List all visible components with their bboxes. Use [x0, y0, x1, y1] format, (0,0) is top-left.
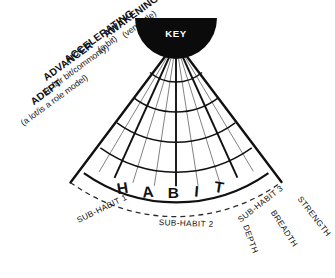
habit-fan-diagram: KEY AWAKENING (very little) ACCELERATING… — [0, 0, 335, 278]
axis-label-depth: DEPTH — [241, 224, 260, 255]
fan-chart-svg: KEY AWAKENING (very little) ACCELERATING… — [0, 0, 335, 278]
habit-letter-t: T — [213, 178, 230, 197]
habit-letter-b: B — [168, 184, 185, 201]
key-dome[interactable]: KEY — [135, 18, 217, 59]
sub-habit-label-2: SUB-HABIT 2 — [159, 218, 214, 229]
maturity-level-labels: AWAKENING (very little) ACCELERATING (a … — [12, 0, 167, 128]
axis-label-breadth: BREADTH — [269, 209, 299, 249]
habit-letter-a: A — [141, 182, 159, 200]
axis-label-strength: STRENGTH — [296, 195, 333, 239]
habit-letter-i: I — [194, 183, 205, 201]
sub-habit-label-1: SUB-HABIT 1 — [75, 193, 128, 225]
key-label: KEY — [165, 28, 187, 39]
